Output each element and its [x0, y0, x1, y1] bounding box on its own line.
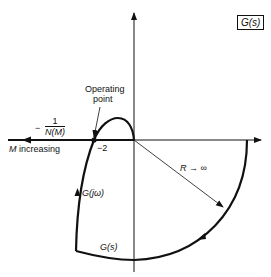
critical-point-label: −2: [97, 143, 107, 153]
arc-direction-arrow-icon: [197, 233, 206, 240]
m-increasing-label: M increasing: [9, 144, 60, 154]
describing-function-label: 1 N(M): [45, 116, 65, 137]
g-jw-label: G(jω): [82, 188, 104, 198]
radius-arrow: [134, 140, 223, 207]
transfer-function-box: G(s): [237, 15, 264, 30]
operating-point-label-2: point: [93, 94, 113, 104]
increasing-text: increasing: [19, 144, 60, 154]
m-variable: M: [9, 144, 17, 154]
nyquist-loop-upper: [94, 118, 134, 140]
nyquist-diagram: [0, 0, 271, 277]
g-s-label: G(s): [100, 242, 118, 252]
operating-point-dot: [91, 137, 96, 142]
m-increasing-arrow-icon: [22, 137, 31, 144]
radius-label: R → ∞: [180, 163, 207, 173]
describing-fn-numerator: 1: [45, 116, 65, 127]
describing-fn-denominator: N(M): [45, 127, 65, 137]
neg-sign: −: [35, 123, 40, 133]
operating-point-label-1: Operating: [85, 84, 125, 94]
